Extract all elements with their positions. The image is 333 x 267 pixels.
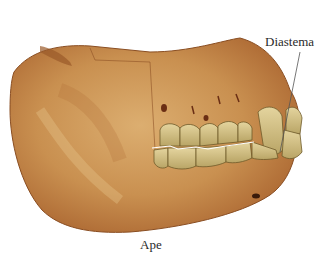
figure-caption: Ape xyxy=(140,237,162,253)
diastema-label: Diastema xyxy=(265,34,314,50)
foramen xyxy=(161,104,167,112)
foramen xyxy=(204,115,209,121)
mental-foramen xyxy=(252,194,260,199)
ape-jaw-figure: Diastema Ape xyxy=(0,0,333,267)
